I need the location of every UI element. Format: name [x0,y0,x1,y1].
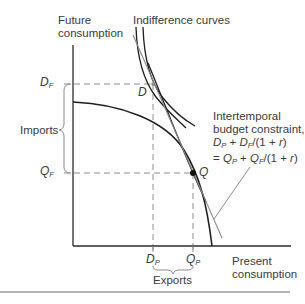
budget-equation-line1: DP + DF/(1 + r) [213,136,304,152]
imports-label: Imports [20,124,58,137]
budget-label-leader [214,167,250,219]
production-point-q [190,170,196,176]
consumption-point-d [151,82,155,86]
qf-tick-label: QF [40,165,54,181]
indifference-curves-label: Indifference curves [133,14,230,27]
budget-label-line2: budget constraint, [213,123,304,136]
qp-tick-label: QP [186,253,200,269]
df-tick-label: DF [40,76,53,92]
point-q-label: Q [199,166,208,179]
exports-label: Exports [153,274,192,287]
y-axis-label-line1: Future [58,14,123,27]
x-axis-label-line1: Present [232,255,297,268]
budget-label-line1: Intertemporal [213,110,304,123]
budget-constraint-label: Intertemporal budget constraint, DP + DF… [213,110,304,168]
y-axis-label: Future consumption [58,14,123,40]
x-axis-label-line2: consumption [232,268,297,281]
x-axis-label: Present consumption [232,255,297,281]
intertemporal-trade-diagram: Future consumption Present consumption I… [0,0,305,304]
budget-constraint-line [133,35,222,238]
budget-equation-line2: = QP + QF/(1 + r) [213,152,304,168]
dp-tick-label: DP [146,253,160,269]
point-d-label: D [138,86,147,99]
y-axis-label-line2: consumption [58,27,123,40]
imports-brace [59,84,71,173]
